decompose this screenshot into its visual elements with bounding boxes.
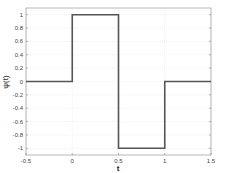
y-tick-label: 1 [20,12,24,18]
y-axis-label: ψ(t) [1,75,10,89]
x-axis-ticks: -0.500.511.5 [21,153,216,164]
haar-wavelet-chart: 10.80.60.40.20-0.2-0.4-0.6-0.8-1 -0.500.… [0,0,230,173]
x-tick-label: 0 [71,158,75,164]
psi-series-line [26,15,211,149]
x-tick-label: 1.5 [207,158,216,164]
x-tick-label: 1 [163,158,167,164]
y-tick-label: 0.8 [15,25,24,31]
y-tick-label: 0.6 [15,38,24,44]
y-tick-label: -0.2 [13,92,24,98]
y-tick-label: 0 [20,79,24,85]
y-tick-label: 0.2 [15,65,24,71]
y-tick-label: -0.8 [13,132,24,138]
y-tick-label: -1 [18,145,24,151]
y-tick-label: 0.4 [15,52,24,58]
x-tick-label: -0.5 [21,158,32,164]
y-tick-label: -0.4 [13,105,24,111]
y-tick-label: -0.6 [13,119,24,125]
x-axis-label: t [117,164,120,173]
